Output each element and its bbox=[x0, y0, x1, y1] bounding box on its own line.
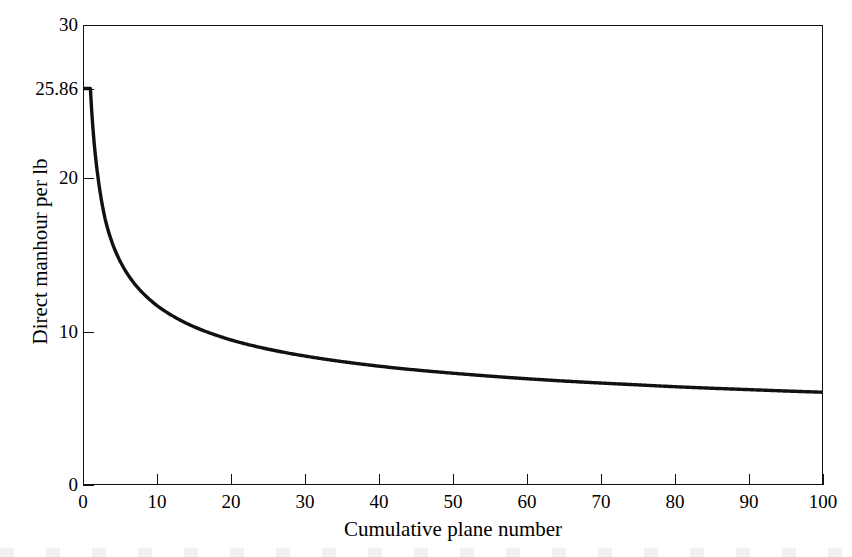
x-axis-title: Cumulative plane number bbox=[83, 518, 823, 541]
x-tick-label-80: 80 bbox=[640, 492, 710, 511]
scan-artifact-strip bbox=[0, 548, 852, 557]
y-tick-10 bbox=[83, 332, 94, 333]
learning-curve-figure: 30 25.86 20 10 0 0 10 20 30 40 50 60 70 … bbox=[0, 0, 852, 557]
y-axis-title: Direct manhour per lb bbox=[29, 112, 52, 392]
y-tick-label-30: 30 bbox=[6, 15, 78, 34]
learning-curve-line bbox=[83, 88, 823, 392]
curve-plot-area bbox=[83, 25, 823, 485]
y-tick-label-25-86-wrap: 25.86 bbox=[0, 79, 78, 98]
x-tick-label-60: 60 bbox=[492, 492, 562, 511]
x-tick-100 bbox=[823, 474, 824, 485]
x-tick-label-40: 40 bbox=[344, 492, 414, 511]
x-tick-0 bbox=[83, 474, 84, 485]
x-tick-label-100: 100 bbox=[788, 492, 852, 511]
x-tick-50 bbox=[453, 474, 454, 485]
y-tick-20 bbox=[83, 178, 94, 179]
x-tick-30 bbox=[305, 474, 306, 485]
x-tick-label-70: 70 bbox=[566, 492, 636, 511]
y-tick-label-30-wrap: 30 bbox=[0, 15, 78, 34]
x-tick-80 bbox=[675, 474, 676, 485]
y-tick-30 bbox=[83, 25, 94, 26]
x-tick-label-90: 90 bbox=[714, 492, 784, 511]
y-tick-0 bbox=[83, 485, 94, 486]
y-tick-25-86 bbox=[83, 89, 94, 90]
x-tick-40 bbox=[379, 474, 380, 485]
x-tick-20 bbox=[231, 474, 232, 485]
x-tick-label-50: 50 bbox=[418, 492, 488, 511]
x-tick-60 bbox=[527, 474, 528, 485]
x-tick-10 bbox=[157, 474, 158, 485]
x-tick-label-0: 0 bbox=[48, 492, 118, 511]
x-tick-70 bbox=[601, 474, 602, 485]
x-tick-label-30: 30 bbox=[270, 492, 340, 511]
x-tick-label-10: 10 bbox=[122, 492, 192, 511]
x-tick-label-20: 20 bbox=[196, 492, 266, 511]
x-tick-90 bbox=[749, 474, 750, 485]
y-tick-label-25-86: 25.86 bbox=[6, 79, 78, 98]
